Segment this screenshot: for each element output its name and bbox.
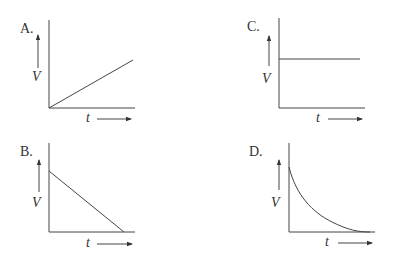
curve-a-linear-increasing <box>49 60 133 108</box>
axes-d <box>289 143 375 232</box>
graph-c <box>269 18 365 119</box>
graph-a <box>38 20 135 119</box>
curve-d-exponential-decay <box>289 167 370 232</box>
axes-b <box>49 143 135 232</box>
graph-b <box>39 143 135 244</box>
axes-a <box>49 20 135 108</box>
graphs-figure <box>0 0 398 259</box>
curve-b-linear-decreasing <box>49 171 124 232</box>
graph-d <box>279 143 375 243</box>
axes-c <box>279 18 365 108</box>
